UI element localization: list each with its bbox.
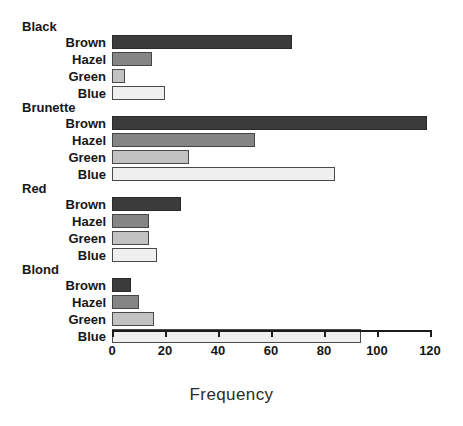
- row-label-black-brown: Brown: [6, 36, 106, 49]
- x-axis-tick-label-60: 60: [251, 344, 291, 357]
- bar-black-hazel: [112, 52, 152, 66]
- bar-blond-hazel: [112, 295, 139, 309]
- row-label-black-blue: Blue: [6, 87, 106, 100]
- bar-brunette-brown: [112, 116, 427, 130]
- x-axis-tick-label-20: 20: [145, 344, 185, 357]
- row-label-black-green: Green: [6, 70, 106, 83]
- group-label-blond: Blond: [22, 263, 59, 276]
- bar-black-brown: [112, 35, 292, 49]
- row-label-wrap: Hazel: [6, 215, 106, 228]
- x-axis-tick-20: [165, 330, 167, 337]
- bar-brunette-blue: [112, 167, 335, 181]
- x-axis-tick-100: [377, 330, 379, 337]
- row-label-wrap: Green: [6, 151, 106, 164]
- x-axis-tick-80: [324, 330, 326, 337]
- row-label-wrap: Brown: [6, 279, 106, 292]
- bar-red-blue: [112, 248, 157, 262]
- bar-black-green: [112, 69, 125, 83]
- x-axis-tick-label-80: 80: [304, 344, 344, 357]
- row-label-wrap: Blue: [6, 249, 106, 262]
- row-label-blond-green: Green: [6, 313, 106, 326]
- row-label-wrap: Blue: [6, 87, 106, 100]
- row-label-brunette-brown: Brown: [6, 117, 106, 130]
- bar-brunette-green: [112, 150, 189, 164]
- group-label-black: Black: [22, 20, 57, 33]
- row-label-brunette-green: Green: [6, 151, 106, 164]
- row-label-blond-brown: Brown: [6, 279, 106, 292]
- row-label-wrap: Blue: [6, 168, 106, 181]
- x-axis-tick-60: [271, 330, 273, 337]
- row-label-wrap: Green: [6, 313, 106, 326]
- bar-red-green: [112, 231, 149, 245]
- row-label-wrap: Brown: [6, 36, 106, 49]
- row-label-wrap: Hazel: [6, 53, 106, 66]
- bar-red-brown: [112, 197, 181, 211]
- row-label-brunette-hazel: Hazel: [6, 134, 106, 147]
- row-label-red-blue: Blue: [6, 249, 106, 262]
- row-label-blond-hazel: Hazel: [6, 296, 106, 309]
- row-label-blond-blue: Blue: [6, 330, 106, 343]
- x-axis-tick-120: [430, 330, 432, 337]
- group-label-red: Red: [22, 182, 47, 195]
- hair-eye-color-bar-chart: BlackBrownHazelGreenBlueBrunetteBrownHaz…: [0, 0, 463, 426]
- row-label-wrap: Hazel: [6, 296, 106, 309]
- row-label-wrap: Blue: [6, 330, 106, 343]
- group-label-brunette: Brunette: [22, 101, 75, 114]
- bar-brunette-hazel: [112, 133, 255, 147]
- bar-blond-green: [112, 312, 154, 326]
- row-label-wrap: Brown: [6, 198, 106, 211]
- bar-red-hazel: [112, 214, 149, 228]
- row-label-red-hazel: Hazel: [6, 215, 106, 228]
- x-axis-tick-label-40: 40: [198, 344, 238, 357]
- row-label-black-hazel: Hazel: [6, 53, 106, 66]
- row-label-red-brown: Brown: [6, 198, 106, 211]
- row-label-wrap: Hazel: [6, 134, 106, 147]
- row-label-red-green: Green: [6, 232, 106, 245]
- x-axis-tick-40: [218, 330, 220, 337]
- x-axis-tick-label-120: 120: [410, 344, 450, 357]
- x-axis-tick-label-0: 0: [92, 344, 132, 357]
- x-axis-tick-label-100: 100: [357, 344, 397, 357]
- row-label-wrap: Green: [6, 70, 106, 83]
- row-label-brunette-blue: Blue: [6, 168, 106, 181]
- row-label-wrap: Brown: [6, 117, 106, 130]
- x-axis-tick-0: [112, 330, 114, 337]
- bar-black-blue: [112, 86, 165, 100]
- bar-blond-brown: [112, 278, 131, 292]
- x-axis-title: Frequency: [0, 385, 463, 405]
- row-label-wrap: Green: [6, 232, 106, 245]
